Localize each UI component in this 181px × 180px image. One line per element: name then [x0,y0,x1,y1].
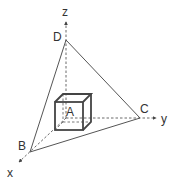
point-B-label: B [18,139,26,153]
point-A-label: A [66,105,74,119]
edge-B-C [30,118,140,152]
cube-hidden-edge [55,122,63,130]
x-axis-label: x [7,166,13,180]
edge-D-C [66,40,140,118]
point-D-label: D [53,30,62,44]
cube-right-face [83,94,91,130]
y-axis-label: y [161,112,167,126]
z-axis-label: z [62,5,68,19]
cube-top-face [55,94,91,102]
point-C-label: C [140,102,149,116]
tetrahedron-diagram: z y x D C B A [0,0,181,180]
x-axis [19,118,66,162]
